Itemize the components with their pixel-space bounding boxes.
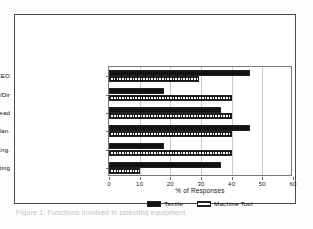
bar-machine-tool: [109, 95, 232, 101]
legend-swatch-textile: [147, 201, 161, 207]
bar-machine-tool: [109, 131, 232, 137]
bar-textile: [109, 143, 164, 149]
category-label: Sales/Marketing: [0, 164, 10, 171]
category-tick: [106, 113, 109, 114]
bar-textile: [109, 107, 221, 113]
x-tick: [201, 177, 202, 180]
bar-textile: [109, 70, 250, 76]
gridline: [170, 67, 171, 175]
category-label: Dept/Div. Head: [0, 109, 10, 116]
legend-item-machine-tool: Machine Tool: [197, 200, 253, 207]
bar-textile: [109, 88, 164, 94]
category-tick: [106, 168, 109, 169]
x-tick: [293, 177, 294, 180]
x-tick: [109, 177, 110, 180]
bar-textile: [109, 162, 221, 168]
x-tick: [170, 177, 171, 180]
gridline: [262, 67, 263, 175]
bar-textile: [109, 125, 250, 131]
gridline: [232, 67, 233, 175]
chart-legend: Textile Machine Tool: [108, 200, 292, 207]
x-tick: [262, 177, 263, 180]
legend-swatch-machine-tool: [197, 201, 211, 207]
x-tick: [140, 177, 141, 180]
bar-machine-tool: [109, 168, 140, 174]
category-tick: [106, 131, 109, 132]
legend-label-machine-tool: Machine Tool: [214, 200, 253, 207]
category-tick: [106, 150, 109, 151]
figure-caption: Figure 1. Functions involved in selectin…: [16, 209, 306, 216]
figure-frame: M.D./Pres/CEOV.P./DirDept/Div. HeadAdmin…: [14, 14, 296, 204]
category-label: Admin/Plan.: [0, 127, 10, 134]
gridline: [140, 67, 141, 175]
bar-machine-tool: [109, 113, 232, 119]
category-tick: [106, 95, 109, 96]
x-tick: [232, 177, 233, 180]
category-label: Prod/Eng.: [0, 146, 10, 153]
gridline: [201, 67, 202, 175]
legend-label-textile: Textile: [164, 200, 183, 207]
category-label: M.D./Pres/CEO: [0, 72, 10, 79]
legend-item-textile: Textile: [147, 200, 183, 207]
bar-machine-tool: [109, 150, 232, 156]
category-label: V.P./Dir: [0, 91, 10, 98]
plot-area: M.D./Pres/CEOV.P./DirDept/Div. HeadAdmin…: [108, 66, 292, 176]
x-axis-title: % of Responses: [108, 187, 292, 194]
bar-machine-tool: [109, 76, 199, 82]
scanned-page: M.D./Pres/CEOV.P./DirDept/Div. HeadAdmin…: [0, 0, 313, 229]
category-tick: [106, 76, 109, 77]
